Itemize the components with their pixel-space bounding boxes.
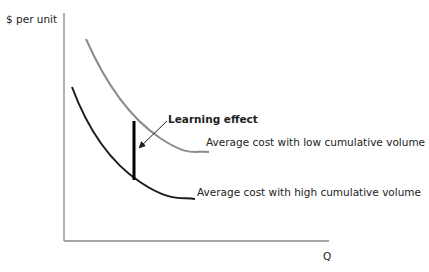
curve-low-volume	[86, 39, 209, 152]
learning-effect-label: Learning effect	[168, 114, 258, 125]
low-volume-label: Average cost with low cumulative volume	[206, 137, 425, 148]
y-axis-label: $ per unit	[6, 14, 57, 25]
x-axis-label: Q	[323, 251, 331, 262]
high-volume-label: Average cost with high cumulative volume	[197, 187, 421, 198]
